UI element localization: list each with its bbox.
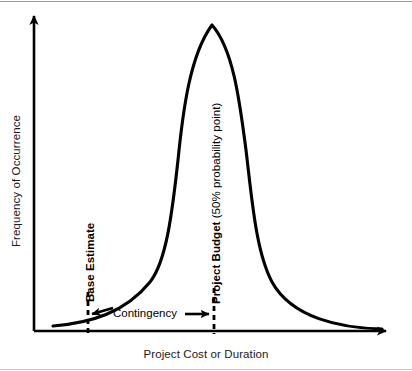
distribution-chart bbox=[0, 0, 412, 371]
contingency-label: Contingency bbox=[113, 307, 177, 319]
figure-canvas: Frequency of Occurrence Project Cost or … bbox=[0, 0, 412, 371]
base-estimate-text: Base Estimate bbox=[84, 223, 96, 302]
y-axis-label: Frequency of Occurrence bbox=[10, 81, 22, 281]
project-budget-regular-text: (50% probability point) bbox=[210, 103, 222, 222]
project-budget-bold-text: Project Budget bbox=[210, 222, 222, 305]
base-estimate-label: Base Estimate bbox=[84, 223, 96, 302]
project-budget-label: Project Budget (50% probability point) bbox=[210, 103, 222, 304]
x-axis-label: Project Cost or Duration bbox=[0, 348, 412, 360]
